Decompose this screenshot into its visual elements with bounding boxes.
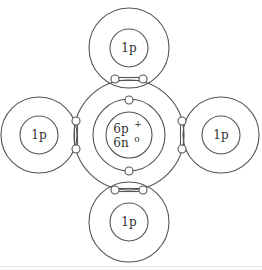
- electron-icon: [178, 117, 186, 125]
- hydrogen-left-label: 1p: [31, 128, 47, 142]
- hydrogen-bottom-label: 1p: [121, 215, 137, 229]
- hydrogen-top-label: 1p: [121, 41, 137, 55]
- carbon-neutral-mark: o: [134, 134, 139, 144]
- electron-icon: [72, 145, 80, 153]
- electron-icon: [111, 186, 119, 194]
- carbon-protons-label: 6p: [113, 122, 129, 136]
- carbon-neutrons-label: 6n: [113, 136, 129, 150]
- carbon-inner-shell: [93, 99, 165, 171]
- hydrogen-right-label: 1p: [213, 128, 229, 142]
- electron-icon: [72, 117, 80, 125]
- electron-icon: [178, 145, 186, 153]
- electron-icon: [125, 167, 133, 175]
- electron-icon: [139, 75, 147, 83]
- methane-shell-diagram: 6p + 6n o 1p 1p 1p 1p: [0, 0, 262, 270]
- electron-icon: [111, 75, 119, 83]
- divider: [0, 266, 262, 267]
- electron-icon: [139, 186, 147, 194]
- electron-icon: [125, 96, 133, 104]
- carbon-charge-label: +: [134, 119, 142, 129]
